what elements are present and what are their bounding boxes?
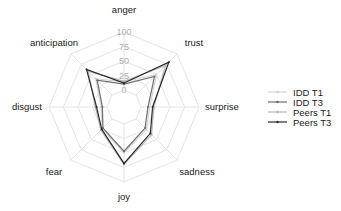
data-point — [168, 61, 170, 63]
axis-label-joy: joy — [117, 191, 130, 202]
legend-marker — [276, 91, 278, 93]
axis-label-trust: trust — [185, 37, 204, 48]
data-point — [147, 106, 149, 108]
data-point — [144, 127, 146, 129]
radial-tick-label: 100 — [116, 27, 131, 37]
data-point — [123, 150, 125, 152]
data-point — [95, 78, 97, 80]
data-point — [152, 106, 154, 108]
axis-label-anger: anger — [112, 4, 136, 15]
radial-tick-label: 50 — [119, 56, 129, 66]
axis-label-sadness: sadness — [179, 166, 215, 177]
axis-label-surprise: surprise — [205, 101, 239, 112]
data-point — [96, 79, 98, 81]
legend-marker — [276, 101, 278, 103]
data-point — [149, 106, 151, 108]
grid-ring — [107, 90, 141, 124]
data-point — [101, 128, 103, 130]
axis-label-disgust: disgust — [12, 101, 42, 112]
legend: IDD T1IDD T3Peers T1Peers T3 — [268, 87, 331, 128]
data-point — [86, 69, 88, 71]
radial-tick-label: 75 — [119, 42, 129, 52]
radial-tick-label: 0 — [121, 85, 126, 95]
radar-chart: 0255075100 angertrustsurprisesadnessjoyf… — [0, 0, 341, 211]
data-point — [123, 162, 125, 164]
axis-label-fear: fear — [46, 166, 62, 177]
data-point — [101, 106, 103, 108]
legend-label: Peers T3 — [293, 117, 331, 128]
radar-axes — [49, 32, 199, 182]
legend-marker — [276, 111, 278, 113]
radial-tick-label: 25 — [119, 71, 129, 81]
axis-label-anticipation: anticipation — [30, 37, 78, 48]
data-point — [96, 106, 98, 108]
data-point — [165, 64, 167, 66]
data-point — [123, 82, 125, 84]
data-point — [156, 73, 158, 75]
data-point — [149, 132, 151, 134]
legend-marker — [276, 121, 278, 123]
data-point — [123, 152, 125, 154]
data-point — [153, 76, 155, 78]
data-point — [123, 80, 125, 82]
